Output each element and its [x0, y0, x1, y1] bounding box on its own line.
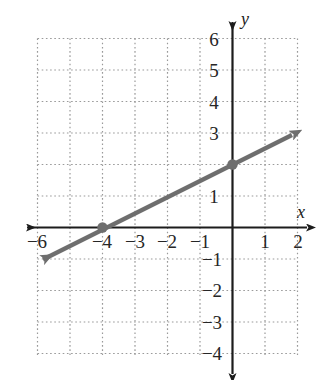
y-tick-label-4: 4 [205, 93, 223, 112]
y-tick-label-5: 5 [205, 61, 223, 80]
y-tick-label-neg-3: −3 [199, 313, 225, 332]
x-tick-label-neg-1: −1 [187, 232, 213, 251]
x-tick-label-neg-6: −6 [24, 232, 50, 251]
y-tick-label-neg-2: −2 [199, 281, 225, 300]
graph-canvas [0, 0, 321, 380]
x-tick-label-neg-2: −2 [154, 232, 180, 251]
y-tick-label-neg-1: −1 [199, 250, 225, 269]
x-tick-label-1: 1 [256, 232, 274, 251]
point-y-intercept [227, 159, 237, 169]
x-tick-label-neg-3: −3 [122, 232, 148, 251]
y-axis-label: y [241, 10, 249, 28]
y-tick-label-1: 1 [205, 187, 223, 206]
y-tick-label-neg-4: −4 [199, 344, 225, 363]
y-tick-label-3: 3 [205, 124, 223, 143]
y-tick-label-6: 6 [205, 30, 223, 49]
x-axis-label: x [297, 203, 305, 221]
coordinate-plane-figure: 6 5 4 3 1 −1 −2 −3 −4 −6 −4 −3 −2 −1 1 2… [0, 0, 321, 380]
x-tick-label-2: 2 [289, 232, 307, 251]
x-tick-label-neg-4: −4 [89, 232, 115, 251]
